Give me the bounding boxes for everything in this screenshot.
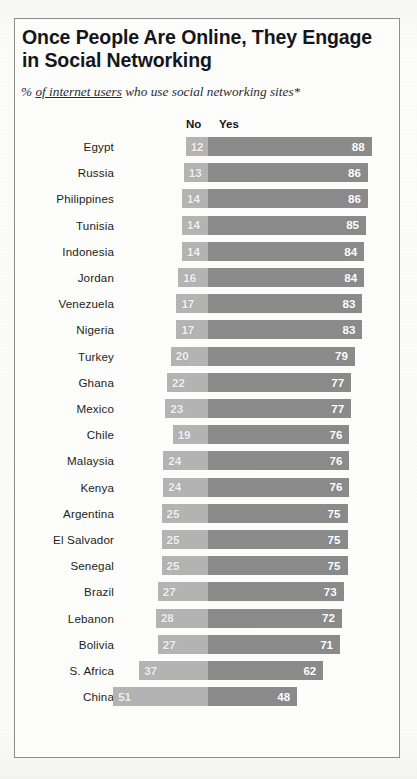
bar-segment-no: 27 (158, 635, 208, 654)
bar-value-yes: 75 (328, 560, 341, 572)
bar-value-yes: 77 (331, 403, 344, 415)
bar-value-yes: 76 (329, 429, 342, 441)
stacked-bar: 1976 (173, 425, 350, 444)
bar-value-yes: 83 (342, 298, 355, 310)
chart-row: Ghana2277 (0, 372, 417, 398)
bar-segment-no: 51 (113, 687, 208, 706)
stacked-bar: 5148 (113, 687, 297, 706)
bar-value-no: 25 (167, 560, 180, 572)
bar-value-yes: 62 (303, 665, 316, 677)
country-label: Indonesia (8, 245, 114, 258)
stacked-bar: 2773 (158, 582, 344, 601)
subtitle-underlined-phrase: of internet users (35, 84, 121, 99)
stacked-bar: 2476 (163, 451, 349, 470)
bar-segment-no: 17 (176, 320, 208, 339)
bar-segment-no: 25 (162, 556, 209, 575)
subtitle-prefix: % (21, 84, 35, 99)
country-label: El Salvador (8, 533, 114, 546)
bar-segment-no: 12 (186, 137, 208, 156)
bar-value-yes: 83 (342, 324, 355, 336)
bar-segment-no: 23 (165, 399, 208, 418)
bar-value-no: 27 (163, 586, 176, 598)
bar-segment-yes: 76 (208, 478, 349, 497)
chart-row: Turkey2079 (0, 346, 417, 372)
bar-segment-yes: 79 (208, 347, 355, 366)
bar-value-no: 17 (181, 324, 194, 336)
bar-segment-no: 14 (182, 242, 208, 261)
bar-segment-no: 17 (176, 294, 208, 313)
country-label: Mexico (8, 402, 114, 415)
scanned-page: Once People Are Online, They Engage in S… (0, 0, 417, 779)
bar-segment-yes: 77 (208, 373, 351, 392)
chart-row: Malaysia2476 (0, 450, 417, 476)
country-label: Malaysia (8, 454, 114, 467)
bar-segment-no: 20 (171, 347, 208, 366)
country-label: Russia (8, 166, 114, 179)
chart-row: Lebanon2872 (0, 608, 417, 634)
stacked-bar: 2079 (171, 347, 355, 366)
chart-row: Argentina2575 (0, 503, 417, 529)
bar-value-no: 20 (176, 350, 189, 362)
bar-value-no: 23 (170, 403, 183, 415)
bar-segment-yes: 75 (208, 504, 348, 523)
stacked-bar: 1783 (176, 294, 362, 313)
bar-segment-yes: 86 (208, 189, 368, 208)
stacked-bar: 1484 (182, 242, 364, 261)
bar-segment-no: 27 (158, 582, 208, 601)
bar-segment-no: 14 (182, 189, 208, 208)
bar-segment-no: 24 (163, 478, 208, 497)
bar-value-no: 28 (161, 612, 174, 624)
country-label: Nigeria (8, 323, 114, 336)
bar-value-no: 12 (191, 141, 204, 153)
bar-segment-yes: 76 (208, 425, 349, 444)
bar-segment-yes: 72 (208, 609, 342, 628)
column-header-yes: Yes (219, 118, 239, 130)
bar-segment-no: 24 (163, 451, 208, 470)
bar-value-no: 13 (189, 167, 202, 179)
stacked-bar: 2277 (167, 373, 351, 392)
bar-segment-yes: 83 (208, 320, 362, 339)
bar-segment-yes: 62 (208, 661, 323, 680)
bar-value-no: 16 (183, 272, 196, 284)
bar-value-no: 14 (187, 219, 200, 231)
bar-value-yes: 75 (328, 508, 341, 520)
country-label: Brazil (8, 585, 114, 598)
bar-value-yes: 77 (331, 377, 344, 389)
bar-value-yes: 73 (324, 586, 337, 598)
stacked-bar: 1684 (178, 268, 364, 287)
subtitle-suffix: who use social networking sites* (122, 84, 300, 99)
bar-value-yes: 85 (346, 219, 359, 231)
bar-value-no: 27 (163, 639, 176, 651)
bar-value-no: 25 (167, 534, 180, 546)
bar-value-no: 24 (168, 481, 181, 493)
stacked-bar: 1485 (182, 216, 366, 235)
stacked-bar: 1783 (176, 320, 362, 339)
stacked-bar: 2476 (163, 478, 349, 497)
bar-segment-yes: 85 (208, 216, 366, 235)
bar-value-yes: 48 (277, 691, 290, 703)
stacked-bar: 1486 (182, 189, 368, 208)
country-label: S. Africa (8, 664, 114, 677)
stacked-bar: 2575 (162, 530, 348, 549)
bar-value-no: 14 (187, 246, 200, 258)
country-label: Egypt (8, 140, 114, 153)
bar-segment-yes: 75 (208, 556, 348, 575)
bar-chart-plot: Egypt1288Russia1386Philippines1486Tunisi… (0, 136, 417, 751)
stacked-bar: 2771 (158, 635, 340, 654)
bar-segment-yes: 71 (208, 635, 340, 654)
bar-value-yes: 84 (344, 272, 357, 284)
page-title: Once People Are Online, They Engage in S… (22, 26, 394, 72)
bar-value-no: 37 (144, 665, 157, 677)
bar-segment-no: 25 (162, 530, 209, 549)
bar-segment-no: 25 (162, 504, 209, 523)
country-label: Chile (8, 428, 114, 441)
bar-segment-yes: 84 (208, 268, 364, 287)
chart-row: Nigeria1783 (0, 319, 417, 345)
country-label: Bolivia (8, 638, 114, 651)
bar-value-yes: 79 (335, 350, 348, 362)
chart-row: Venezuela1783 (0, 293, 417, 319)
bar-value-no: 25 (167, 508, 180, 520)
bar-value-no: 17 (181, 298, 194, 310)
bar-segment-yes: 77 (208, 399, 351, 418)
country-label: Argentina (8, 507, 114, 520)
